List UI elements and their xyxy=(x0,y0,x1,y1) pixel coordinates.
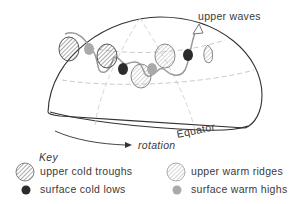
key-cold-trough-icon xyxy=(16,163,34,181)
key-warm-high-icon xyxy=(173,186,182,195)
rotation-label: rotation xyxy=(138,139,175,151)
upper-cold-trough xyxy=(59,37,79,61)
key-label-cold-troughs: upper cold troughs xyxy=(40,165,132,177)
upper-cold-trough xyxy=(97,44,117,68)
surface-cold-low xyxy=(183,49,193,61)
rotation-arrow xyxy=(55,131,125,145)
key-title: Key xyxy=(39,151,58,163)
rotation-arrow-icon xyxy=(125,142,132,148)
key-warm-ridge-icon xyxy=(167,163,185,181)
key-label-warm-ridges: upper warm ridges xyxy=(191,165,283,177)
key-cold-low-icon xyxy=(22,186,31,195)
key-label-warm-highs: surface warm highs xyxy=(191,183,287,195)
key-label-cold-lows: surface cold lows xyxy=(40,183,126,195)
surface-cold-low xyxy=(118,63,128,75)
surface-warm-high xyxy=(147,63,157,75)
upper-waves-label: upper waves xyxy=(198,10,261,22)
upper-warm-ridge xyxy=(155,44,175,68)
surface-warm-high xyxy=(84,43,94,55)
